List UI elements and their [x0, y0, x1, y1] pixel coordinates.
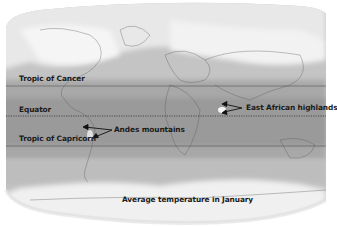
tropic-of-cancer-label: Tropic of Cancer	[19, 74, 85, 83]
map-title: Average temperature in January	[122, 195, 253, 204]
east-african-highlands-label: East African highlands	[246, 103, 337, 112]
andes-mountains-label: Andes mountains	[114, 125, 185, 134]
equator-label: Equator	[19, 105, 51, 114]
tropic-of-capricorn-label: Tropic of Capricorn	[19, 134, 96, 143]
